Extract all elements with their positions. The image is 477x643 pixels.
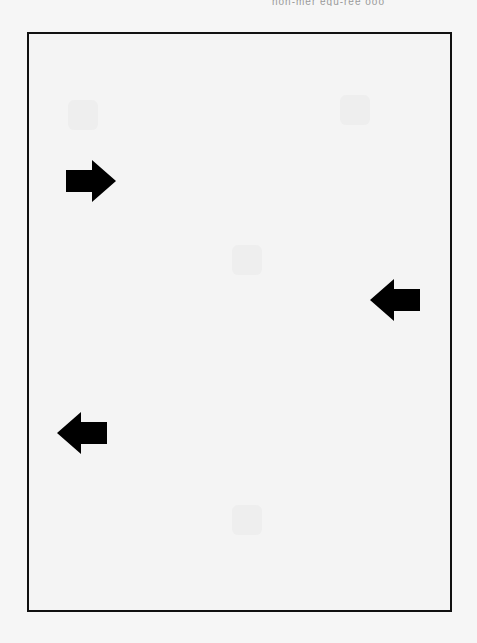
faint-watermark-icon	[68, 100, 98, 130]
faint-watermark-icon	[340, 95, 370, 125]
faint-watermark-icon	[232, 505, 262, 535]
faint-watermark-icon	[232, 245, 262, 275]
arrow-left-icon	[57, 412, 109, 454]
page-header-text: non-mer equ-ree ooo	[272, 0, 432, 6]
arrow-left-icon	[370, 279, 422, 321]
arrow-right-icon	[66, 160, 118, 202]
